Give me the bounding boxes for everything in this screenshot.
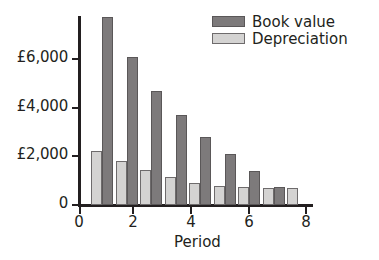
dark-gray-swatch-icon — [212, 16, 245, 27]
legend-label-depreciation: Depreciation — [252, 31, 348, 47]
bar-book-value-period-6 — [225, 154, 236, 205]
bar-book-value-period-8 — [274, 187, 285, 205]
legend-item-book-value: Book value — [212, 13, 348, 30]
y-axis-label-6000: £6,000 — [17, 50, 68, 65]
x-axis-label-2: 2 — [122, 214, 144, 230]
bar-depreciation-period-1 — [91, 151, 102, 205]
y-axis-tick-4000 — [72, 107, 79, 109]
x-axis-label-0: 0 — [68, 214, 90, 230]
bar-book-value-period-4 — [176, 115, 187, 205]
bar-depreciation-period-8 — [263, 188, 274, 205]
y-axis-label-4000: £4,000 — [17, 99, 68, 114]
bar-depreciation-period-4 — [165, 177, 176, 205]
bar-book-value-period-7 — [249, 171, 260, 205]
bar-book-value-period-3 — [151, 91, 162, 205]
bar-book-value-period-1 — [102, 17, 113, 205]
bar-depreciation-period-6 — [214, 186, 225, 205]
bar-depreciation-period-9 — [287, 188, 298, 205]
bar-book-value-period-5 — [200, 137, 211, 205]
legend-label-book-value: Book value — [252, 14, 335, 30]
bar-depreciation-period-5 — [189, 183, 200, 205]
light-gray-swatch-icon — [212, 33, 245, 44]
y-axis-label-2000: £2,000 — [17, 147, 68, 162]
chart-legend: Book value Depreciation — [212, 13, 348, 47]
x-axis-title: Period — [0, 234, 379, 251]
legend-item-depreciation: Depreciation — [212, 30, 348, 47]
y-axis-line — [78, 16, 81, 206]
x-axis-label-8: 8 — [295, 214, 317, 230]
bar-depreciation-period-7 — [238, 187, 249, 205]
y-axis-tick-6000 — [72, 58, 79, 60]
bar-depreciation-period-2 — [116, 161, 127, 205]
y-axis-tick-0 — [72, 204, 79, 206]
x-axis-label-4: 4 — [180, 214, 202, 230]
depreciation-bar-chart: £6,000 £4,000 £2,000 0 0 2 4 6 8 Period … — [0, 0, 379, 260]
y-axis-label-0: 0 — [59, 196, 68, 211]
x-axis-label-6: 6 — [238, 214, 260, 230]
bar-depreciation-period-3 — [140, 170, 151, 205]
bar-book-value-period-2 — [127, 57, 138, 205]
y-axis-tick-2000 — [72, 155, 79, 157]
